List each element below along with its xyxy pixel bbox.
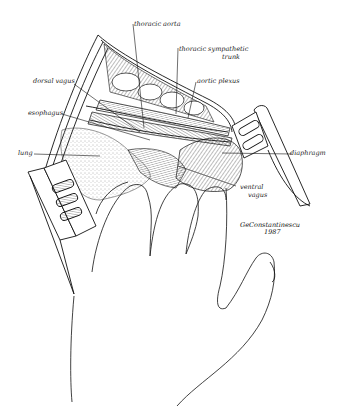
anatomical-illustration xyxy=(0,0,339,416)
diaphragm xyxy=(176,138,242,192)
label-diaphragm: diaphragm xyxy=(290,150,326,157)
label-thoracic-sympathetic-trunk-2: trunk xyxy=(222,54,240,61)
label-esophagus: esophagus xyxy=(28,110,63,117)
label-lung: lung xyxy=(18,150,33,157)
label-thoracic-sympathetic-trunk: thoracic sympathetic xyxy=(179,46,248,53)
label-ventral-vagus: ventral xyxy=(240,184,263,191)
label-ventral-vagus-2: vagus xyxy=(248,192,267,199)
hand-outline xyxy=(71,182,275,406)
signature-year: 1987 xyxy=(264,229,281,235)
label-aortic-plexus: aortic plexus xyxy=(197,78,240,85)
label-dorsal-vagus: dorsal vagus xyxy=(33,78,75,85)
label-thoracic-aorta: thoracic aorta xyxy=(134,21,181,28)
